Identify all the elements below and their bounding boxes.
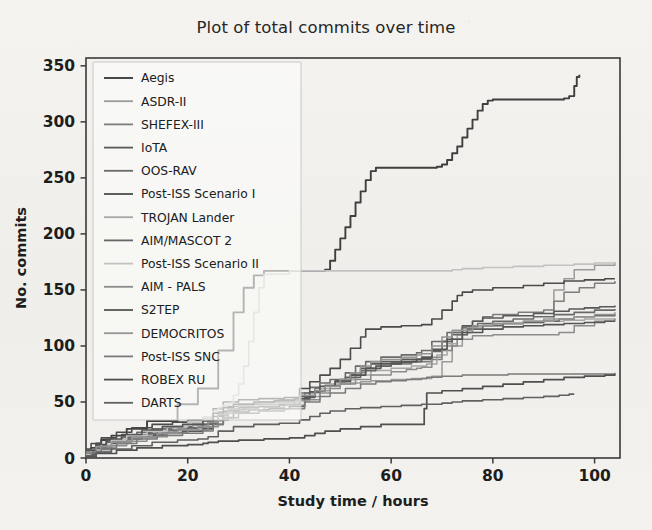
- y-tick-label: 50: [53, 393, 75, 411]
- legend-label: TROJAN Lander: [140, 211, 235, 225]
- legend-label: ASDR-II: [141, 95, 186, 109]
- y-tick-label: 250: [43, 169, 76, 187]
- legend-label: IoTA: [141, 141, 168, 155]
- legend-label: ROBEX RU: [141, 373, 205, 387]
- y-tick-label: 350: [43, 57, 76, 75]
- figure: Plot of total commits over time 02040608…: [0, 0, 652, 530]
- legend-label: DARTS: [141, 396, 182, 410]
- legend-label: OOS-RAV: [141, 164, 197, 178]
- x-tick-label: 20: [177, 467, 199, 485]
- legend-label: Post-ISS Scenario I: [141, 187, 255, 201]
- y-axis-label: No. commits: [13, 207, 29, 309]
- legend-label: SHEFEX-III: [141, 118, 204, 132]
- y-tick-label: 150: [43, 281, 76, 299]
- legend-label: AIM - PALS: [141, 280, 206, 294]
- legend-label: Post-ISS Scenario II: [141, 257, 259, 271]
- y-tick-label: 200: [43, 225, 76, 243]
- x-tick-label: 40: [279, 467, 301, 485]
- legend-label: S2TEP: [141, 303, 179, 317]
- legend: AegisASDR-IISHEFEX-IIIIoTAOOS-RAVPost-IS…: [93, 62, 301, 420]
- y-tick-label: 0: [64, 450, 75, 468]
- legend-label: Aegis: [141, 71, 174, 85]
- x-axis-label: Study time / hours: [277, 493, 428, 509]
- legend-label: AIM/MASCOT 2: [141, 234, 232, 248]
- y-tick-label: 300: [43, 113, 76, 131]
- legend-label: Post-ISS SNC: [141, 350, 220, 364]
- chart-canvas: 020406080100050100150200250300350Study t…: [0, 0, 652, 530]
- x-tick-label: 60: [380, 467, 402, 485]
- x-tick-label: 80: [482, 467, 504, 485]
- x-tick-label: 0: [81, 467, 92, 485]
- x-tick-label: 100: [578, 467, 611, 485]
- legend-label: DEMOCRITOS: [141, 327, 224, 341]
- y-tick-label: 100: [43, 337, 76, 355]
